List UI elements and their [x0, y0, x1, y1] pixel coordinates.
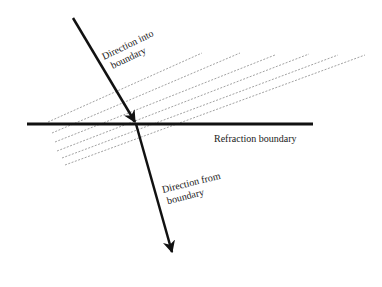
refraction-diagram: Direction into boundary Refraction bound…: [0, 0, 382, 287]
dashed-line: [52, 53, 240, 133]
incoming-label: Direction into boundary: [100, 27, 160, 72]
dashed-line: [55, 55, 275, 142]
dashed-line: [65, 55, 365, 165]
incoming-direction-arrow-icon: [73, 18, 135, 122]
boundary-label: Refraction boundary: [214, 133, 296, 144]
wavefront-dashed-lines: [48, 53, 365, 165]
outgoing-label: Direction from boundary: [161, 170, 225, 207]
